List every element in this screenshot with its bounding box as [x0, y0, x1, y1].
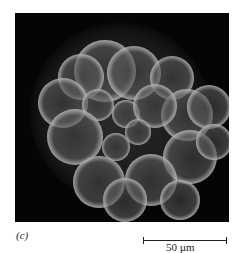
- cell: [187, 85, 229, 129]
- cell: [196, 124, 229, 160]
- cell: [125, 119, 151, 145]
- scale-bar-label: 50 µm: [166, 241, 195, 253]
- micrograph-image: [15, 13, 229, 222]
- cell: [103, 178, 147, 222]
- panel-label: (c): [16, 229, 28, 241]
- cell: [160, 180, 200, 220]
